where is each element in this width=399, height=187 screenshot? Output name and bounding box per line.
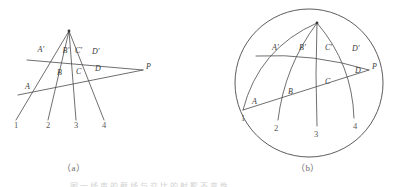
label-A: A: [24, 82, 30, 91]
ray-number-4: 4: [102, 120, 107, 130]
label-D: D: [94, 64, 101, 73]
transversal-upper-b: [256, 56, 369, 70]
label-b-B: B: [288, 87, 293, 96]
label-P-b: P: [371, 62, 377, 71]
label-b-C: C: [325, 77, 331, 86]
label-b-B-prime: B': [299, 43, 306, 52]
label-B-prime: B': [63, 46, 70, 55]
label-D-prime: D': [91, 47, 100, 56]
panel-a-diagram: A'B'C'D'ABCDP1234: [14, 30, 151, 130]
arc-ray-3: [316, 23, 317, 126]
arc-number-2: 2: [274, 123, 278, 133]
label-A-prime: A': [37, 45, 45, 54]
ray-number-1: 1: [14, 120, 18, 130]
panel-a-caption: （a）: [62, 161, 85, 174]
label-b-D-prime: D': [351, 44, 360, 53]
arc-number-1: 1: [241, 113, 245, 123]
label-C: C: [76, 67, 82, 76]
panel-b-caption: （b）: [296, 161, 320, 174]
transversal-upper: [27, 60, 143, 70]
label-C-prime: C': [75, 46, 82, 55]
ray-number-3: 3: [74, 120, 78, 130]
arc-ray-2: [278, 23, 317, 120]
transversal-lower-b: [243, 70, 369, 110]
ray-3: [69, 31, 76, 120]
panel-b-diagram: A'B'C'D'ABCDP1234: [235, 9, 383, 157]
figure-root: A'B'C'D'ABCDP1234 A'B'C'D'ABCDP1234 （a） …: [0, 0, 399, 187]
figure-footer-text: 图 一 线 束 的 截 线 与 交 比 的 射 影 不 变 性: [70, 180, 370, 187]
ray-number-2: 2: [46, 120, 50, 130]
label-b-A-prime: A': [271, 43, 279, 52]
ray-4: [69, 31, 104, 120]
label-b-A: A: [251, 97, 257, 106]
apex-point-a: [68, 30, 71, 33]
label-b-C-prime: C': [325, 43, 332, 52]
arc-number-3: 3: [314, 129, 318, 139]
label-P-a: P: [145, 62, 151, 71]
geometry-figure-canvas: A'B'C'D'ABCDP1234 A'B'C'D'ABCDP1234: [0, 0, 399, 187]
arc-number-4: 4: [353, 121, 358, 131]
bounding-circle: [235, 9, 383, 157]
label-B: B: [57, 68, 62, 77]
label-b-D: D: [354, 66, 361, 75]
arc-ray-4: [317, 23, 354, 118]
apex-point-b: [316, 22, 319, 25]
